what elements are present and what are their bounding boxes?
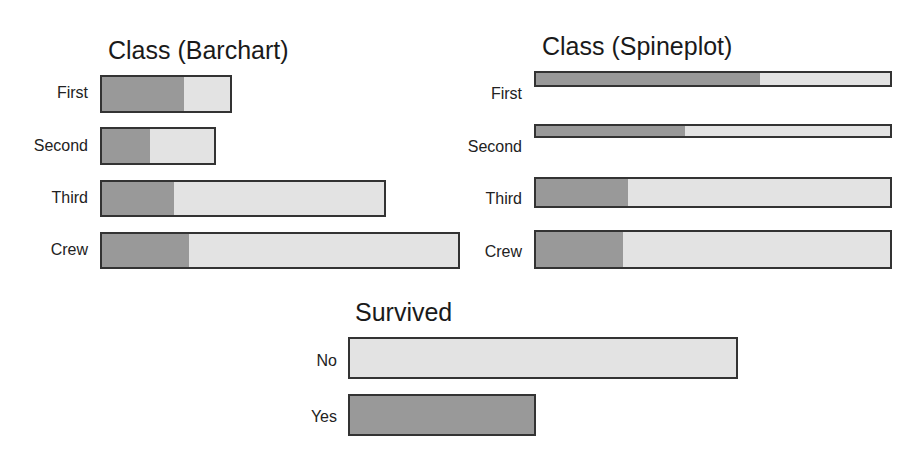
spineplot-bar-second[interactable] xyxy=(534,124,892,138)
barchart-label-crew: Crew xyxy=(51,241,88,259)
barchart-title: Class (Barchart) xyxy=(108,36,289,65)
barchart-bar-first-survived xyxy=(102,77,184,111)
spineplot-bar-crew-survived xyxy=(536,232,623,267)
barchart-bar-crew[interactable] xyxy=(100,232,460,269)
barchart-bar-crew-survived xyxy=(102,234,189,267)
spineplot-bar-crew[interactable] xyxy=(534,230,892,269)
barchart-bar-third-survived xyxy=(102,182,174,215)
spineplot-label-third: Third xyxy=(486,190,522,208)
spineplot-label-crew: Crew xyxy=(485,243,522,261)
barchart-bar-third[interactable] xyxy=(100,180,386,217)
survived-title: Survived xyxy=(355,298,452,327)
spineplot-bar-second-survived xyxy=(536,126,685,136)
barchart-bar-first[interactable] xyxy=(100,75,232,113)
survived-label-no: No xyxy=(317,352,337,370)
spineplot-bar-third-survived xyxy=(536,179,628,206)
barchart-label-third: Third xyxy=(52,189,88,207)
spineplot-label-second: Second xyxy=(468,138,522,156)
barchart-bar-second-survived xyxy=(102,129,150,163)
survived-label-yes: Yes xyxy=(311,408,337,426)
spineplot-title: Class (Spineplot) xyxy=(542,32,732,61)
spineplot-bar-first[interactable] xyxy=(534,71,892,87)
spineplot-bar-third[interactable] xyxy=(534,177,892,208)
barchart-label-second: Second xyxy=(34,137,88,155)
spineplot-bar-first-survived xyxy=(536,73,760,85)
barchart-label-first: First xyxy=(57,84,88,102)
survived-bar-yes[interactable] xyxy=(348,394,536,436)
barchart-bar-second[interactable] xyxy=(100,127,216,165)
survived-bar-no[interactable] xyxy=(348,337,738,379)
spineplot-label-first: First xyxy=(491,85,522,103)
